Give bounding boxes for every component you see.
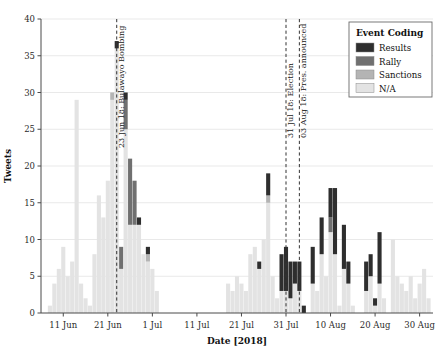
bar-segment-na — [275, 298, 279, 313]
bar-group — [253, 247, 257, 313]
y-tick-label-20: 20 — [24, 161, 35, 171]
bar-segment-na — [101, 217, 105, 313]
y-tick-label-30: 30 — [24, 88, 35, 98]
legend-label-sanctions: Sanctions — [379, 70, 422, 80]
bar-group — [311, 247, 315, 313]
bar-segment-rally — [128, 159, 132, 225]
bar-segment-na — [57, 269, 61, 313]
bar-group — [418, 284, 422, 313]
legend-title: Event Coding — [356, 28, 424, 38]
bar-group — [369, 254, 373, 313]
bar-segment-na — [124, 129, 128, 313]
bar-segment-na — [119, 269, 123, 313]
bar-segment-na — [418, 284, 422, 313]
bar-segment-na — [79, 284, 83, 313]
bar-segment-results — [280, 254, 284, 291]
bar-segment-na — [409, 276, 413, 313]
bar-group — [342, 225, 346, 313]
bar-segment-na — [346, 284, 350, 313]
bar-segment-na — [280, 291, 284, 313]
bar-group — [378, 232, 382, 313]
bar-segment-na — [320, 254, 324, 313]
bar-group — [235, 276, 239, 313]
y-tick-label-15: 15 — [24, 198, 35, 208]
bar-segment-na — [88, 306, 92, 313]
bar-segment-na — [262, 240, 266, 314]
x-tick-label-8: 30 Aug — [404, 320, 435, 330]
bar-group — [404, 291, 408, 313]
bar-group — [333, 188, 337, 313]
bar-segment-results — [329, 188, 333, 217]
bar-group — [248, 254, 252, 313]
bar-group — [101, 217, 105, 313]
bar-group — [128, 159, 132, 313]
bar-group — [271, 276, 275, 313]
bar-segment-results — [369, 254, 373, 276]
bar-segment-na — [378, 284, 382, 313]
bar-group — [275, 298, 279, 313]
bar-segment-na — [337, 306, 341, 313]
legend-swatch-sanctions — [356, 70, 374, 79]
bar-segment-results — [288, 262, 292, 299]
bar-group — [257, 262, 261, 313]
bar-group — [133, 181, 137, 313]
bar-group — [293, 262, 297, 313]
bar-group — [88, 306, 92, 313]
legend: Event CodingResultsRallySanctionsN/A — [349, 22, 432, 97]
bar-segment-na — [106, 181, 110, 313]
bar-segment-na — [266, 203, 270, 313]
bar-segment-na — [422, 269, 426, 313]
bar-group — [150, 269, 154, 313]
x-tick-label-4: 21 Jul — [229, 320, 254, 330]
bar-segment-results — [293, 262, 297, 284]
bar-group — [284, 247, 288, 313]
tweets-event-coding-chart: 23 Jun 18: Bulawayo Bombing31 Jul 18: El… — [0, 0, 440, 358]
bar-segment-na — [329, 232, 333, 313]
bar-group — [52, 284, 56, 313]
bar-segment-results — [311, 247, 315, 284]
bar-group — [70, 262, 74, 313]
bar-group — [110, 93, 114, 314]
bar-segment-na — [244, 291, 248, 313]
bar-segment-na — [400, 284, 404, 313]
bar-segment-na — [155, 291, 159, 313]
bar-segment-na — [48, 306, 52, 313]
bar-segment-na — [271, 276, 275, 313]
bar-segment-na — [66, 276, 70, 313]
bar-segment-na — [257, 269, 261, 313]
bar-group — [373, 298, 377, 313]
bar-group — [382, 298, 386, 313]
bar-segment-results — [320, 217, 324, 254]
bar-group — [57, 269, 61, 313]
bar-segment-na — [369, 276, 373, 313]
legend-swatch-results — [356, 43, 374, 52]
bar-segment-results — [146, 247, 150, 254]
bar-segment-na — [239, 284, 243, 313]
event-label-3: 03 Aug 18: Pres. announced — [299, 24, 308, 138]
bar-segment-na — [235, 276, 239, 313]
bar-group — [84, 298, 88, 313]
bar-group — [79, 284, 83, 313]
bar-segment-na — [404, 291, 408, 313]
bar-segment-results — [373, 298, 377, 305]
x-axis-title: Date [2018] — [207, 336, 267, 346]
bar-segment-na — [253, 247, 257, 313]
bar-group — [315, 291, 319, 313]
bar-group — [395, 276, 399, 313]
bar-group — [66, 276, 70, 313]
y-axis-title: Tweets — [3, 149, 13, 183]
bar-group — [106, 181, 110, 313]
bar-group — [92, 254, 96, 313]
bar-segment-na — [333, 254, 337, 313]
bar-group — [422, 269, 426, 313]
bar-segment-results — [266, 173, 270, 195]
bar-group — [320, 217, 324, 313]
bar-group — [48, 306, 52, 313]
bar-group — [266, 173, 270, 313]
bar-segment-results — [346, 262, 350, 284]
bar-group — [324, 276, 328, 313]
bar-segment-na — [128, 225, 132, 313]
bar-segment-na — [92, 254, 96, 313]
bar-segment-na — [61, 247, 65, 313]
bar-segment-na — [315, 291, 319, 313]
